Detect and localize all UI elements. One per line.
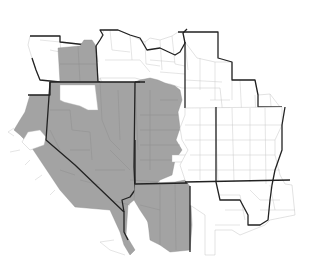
eastern-counties (180, 107, 295, 255)
western-us-county-map (0, 0, 319, 274)
